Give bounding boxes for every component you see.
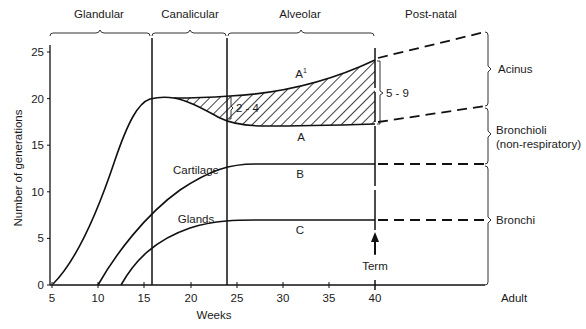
term-arrow-icon [371, 232, 379, 254]
phase-label-glandular: Glandular [74, 8, 124, 20]
brace-glandular [50, 30, 150, 36]
x-tick-35: 35 [323, 292, 336, 304]
y-tick-5: 5 [38, 232, 44, 244]
phase-label-alveolar: Alveolar [279, 8, 321, 20]
label-bronchi: Bronchi [496, 214, 535, 226]
brace-acinus [485, 32, 491, 106]
label-b: B [296, 168, 304, 180]
curve-cartilage-b [98, 164, 375, 285]
dashed-acinus-bottom [378, 106, 485, 122]
label-a: A [297, 131, 305, 143]
y-tick-20: 20 [31, 93, 44, 105]
x-tick-40: 40 [369, 292, 382, 304]
x-tick-30: 30 [277, 292, 290, 304]
x-tick-5: 5 [49, 292, 55, 304]
phase-braces [50, 30, 374, 36]
hatched-region-a-prime-a [174, 60, 375, 126]
curve-glands-c [121, 220, 375, 285]
lung-development-chart: Glandular Canalicular Alveolar Post-nata… [0, 0, 586, 329]
x-tick-20: 20 [185, 292, 198, 304]
annotation-5-9: 5 - 9 [386, 87, 409, 99]
phase-label-canalicular: Canalicular [161, 8, 219, 20]
x-axis-label: Weeks [197, 309, 232, 321]
y-axis-label: Number of generations [12, 109, 24, 226]
x-axis: 5 10 15 20 25 30 35 40 Adult [49, 280, 528, 304]
annotation-2-4: 2 - 4 [236, 102, 260, 114]
x-tick-25: 25 [231, 292, 244, 304]
term-label: Term [362, 260, 388, 272]
y-tick-25: 25 [31, 46, 44, 58]
brace-alveolar [228, 30, 374, 36]
y-axis: 0 5 10 15 20 25 [31, 45, 50, 291]
label-glands: Glands [178, 213, 215, 225]
x-label-adult: Adult [501, 292, 528, 304]
brace-canalicular [152, 30, 226, 36]
y-tick-10: 10 [31, 186, 44, 198]
y-tick-0: 0 [38, 279, 44, 291]
label-bronchioli: Bronchioli [496, 124, 547, 136]
label-a-prime: A1 [295, 67, 307, 80]
brace-bronchi [485, 166, 491, 282]
x-tick-10: 10 [92, 292, 105, 304]
label-bronchioli-sub: (non-respiratory) [496, 138, 581, 150]
label-acinus: Acinus [498, 63, 533, 75]
label-c: C [296, 224, 304, 236]
x-tick-15: 15 [138, 292, 151, 304]
label-cartilage: Cartilage [173, 164, 219, 176]
bracket-5-9 [377, 61, 383, 124]
dashed-acinus-top [378, 32, 485, 58]
brace-bronchioli [485, 108, 491, 164]
y-tick-15: 15 [31, 139, 44, 151]
phase-label-postnatal: Post-natal [405, 8, 457, 20]
